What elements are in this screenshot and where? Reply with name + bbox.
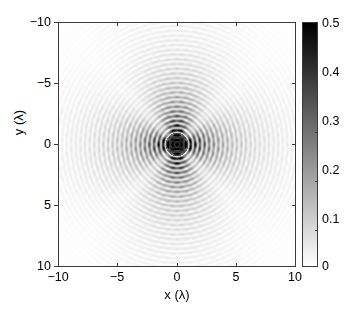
colorbar-label-0: 0 <box>322 260 329 273</box>
colorbar-tick-0p2 <box>315 181 318 182</box>
yticklabel-10: 10 <box>10 260 51 273</box>
figure-2d-intensity-map: −10 −5 0 5 10 −10 −5 0 5 10 x (λ) y (λ) … <box>0 0 352 313</box>
colorbar-tick-0p1 <box>315 230 318 231</box>
yticklabel-minus10: −10 <box>10 16 51 29</box>
yticklabel-5: 5 <box>10 199 51 212</box>
xtick-top-minus10 <box>58 22 59 26</box>
plot-axes <box>58 22 296 267</box>
xticklabel-minus5: −5 <box>110 271 124 284</box>
ytick-right-5 <box>292 205 296 206</box>
xtick-5 <box>236 263 237 267</box>
colorbar-label-0p3: 0.3 <box>322 115 339 128</box>
xticklabel-5: 5 <box>233 271 240 284</box>
intensity-field-image <box>59 23 295 266</box>
x-axis-label: x (λ) <box>58 288 296 301</box>
ytick-0 <box>54 144 58 145</box>
xticklabel-10: 10 <box>288 271 302 284</box>
colorbar-label-0p5: 0.5 <box>322 17 339 30</box>
xtick-top-10 <box>295 22 296 26</box>
xtick-top-minus5 <box>117 22 118 26</box>
colorbar-tick-0p4 <box>315 83 318 84</box>
xtick-minus5 <box>117 263 118 267</box>
y-axis-label: y (λ) <box>12 83 25 163</box>
ytick-5 <box>54 205 58 206</box>
xtick-10 <box>295 263 296 267</box>
ytick-minus5 <box>54 83 58 84</box>
xtick-minus10 <box>58 263 59 267</box>
colorbar-label-0p4: 0.4 <box>322 66 339 79</box>
xtick-top-5 <box>236 22 237 26</box>
xticklabel-minus10: −10 <box>47 271 68 284</box>
ytick-right-0 <box>292 144 296 145</box>
xtick-top-0 <box>177 22 178 26</box>
colorbar-label-0p1: 0.1 <box>322 213 339 226</box>
xtick-0 <box>177 263 178 267</box>
ytick-right-minus5 <box>292 83 296 84</box>
xticklabel-0: 0 <box>174 271 181 284</box>
colorbar-label-0p2: 0.2 <box>322 164 339 177</box>
colorbar-tick-0p3 <box>315 132 318 133</box>
